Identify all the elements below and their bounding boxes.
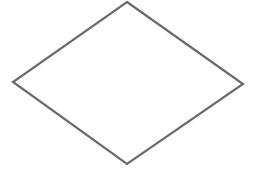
diagram-canvas bbox=[0, 0, 259, 172]
diagram-svg bbox=[0, 0, 259, 172]
decision-diamond bbox=[13, 2, 243, 164]
